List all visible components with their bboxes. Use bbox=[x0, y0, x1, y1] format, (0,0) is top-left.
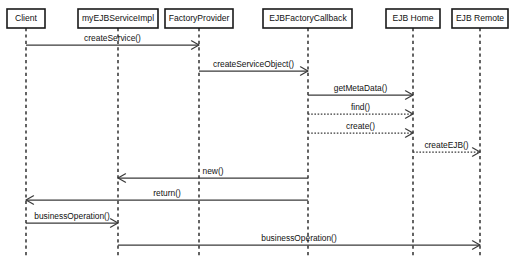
message-label: createServiceObject() bbox=[213, 59, 294, 69]
arrow-head bbox=[406, 110, 414, 118]
message-label: businessOperation() bbox=[261, 233, 337, 243]
message-label: create() bbox=[346, 121, 375, 131]
participant-ejbremote[interactable]: EJB Remote bbox=[452, 9, 508, 28]
message-m5: create() bbox=[308, 121, 413, 138]
participant-label: Client bbox=[15, 13, 38, 23]
message-m6: createEJB() bbox=[413, 140, 480, 157]
uml-sequence-diagram: createService()createServiceObject()getM… bbox=[0, 0, 510, 259]
message-m8: return() bbox=[26, 188, 308, 205]
message-m10: businessOperation() bbox=[118, 233, 480, 250]
message-m4: find() bbox=[308, 102, 413, 119]
message-m1: createService() bbox=[26, 33, 199, 50]
message-m2: createServiceObject() bbox=[199, 59, 308, 76]
message-label: find() bbox=[351, 102, 370, 112]
participant-ejbhome[interactable]: EJB Home bbox=[386, 9, 440, 28]
message-m3: getMetaData() bbox=[308, 83, 413, 100]
message-label: createService() bbox=[84, 33, 141, 43]
message-label: new() bbox=[203, 166, 224, 176]
message-m7: new() bbox=[118, 166, 308, 183]
arrow-head bbox=[473, 148, 481, 156]
message-label: createEJB() bbox=[424, 140, 468, 150]
message-label: return() bbox=[153, 188, 181, 198]
message-label: businessOperation() bbox=[34, 211, 110, 221]
arrow-head bbox=[406, 129, 414, 137]
participant-label: FactoryProvider bbox=[169, 13, 230, 23]
participant-label: EJBFactoryCallback bbox=[269, 13, 347, 23]
message-m9: businessOperation() bbox=[26, 211, 118, 228]
participant-label: EJB Remote bbox=[456, 13, 504, 23]
participant-client[interactable]: Client bbox=[7, 9, 45, 28]
message-label: getMetaData() bbox=[334, 83, 388, 93]
participant-label: EJB Home bbox=[392, 13, 433, 23]
participant-label: myEJBServiceImpl bbox=[82, 13, 154, 23]
participant-service[interactable]: myEJBServiceImpl bbox=[78, 9, 158, 28]
participant-callback[interactable]: EJBFactoryCallback bbox=[263, 9, 352, 28]
participant-factory[interactable]: FactoryProvider bbox=[165, 9, 233, 28]
sequence-diagram-canvas: createService()createServiceObject()getM… bbox=[0, 0, 510, 259]
